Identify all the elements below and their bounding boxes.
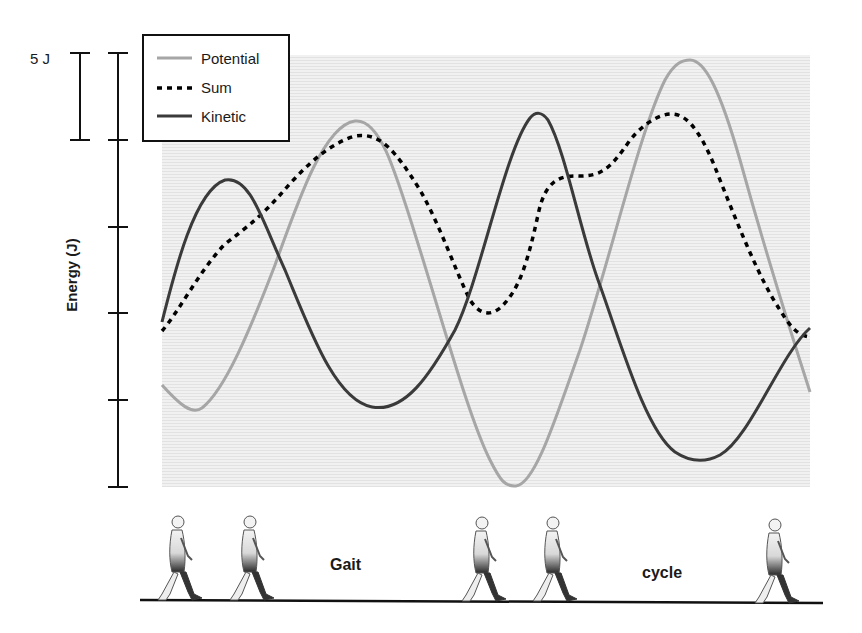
- walking-figure-3: [462, 517, 506, 601]
- legend: Potential Sum Kinetic: [143, 35, 289, 141]
- walking-figure-2: [230, 516, 274, 600]
- energy-chart: 5 J Energy (J) Potential Sum Kinetic Gai…: [0, 0, 862, 633]
- walking-figure-1: [158, 516, 202, 600]
- legend-label-sum: Sum: [201, 79, 232, 96]
- y-axis: [108, 53, 128, 487]
- ground-line: [140, 600, 823, 603]
- scale-bar-label: 5 J: [30, 50, 50, 67]
- y-axis-label: Energy (J): [63, 238, 80, 311]
- scale-bar: [70, 53, 90, 140]
- legend-label-potential: Potential: [201, 50, 259, 67]
- cycle-label: cycle: [642, 564, 682, 581]
- walking-figure-5: [755, 519, 799, 603]
- legend-label-kinetic: Kinetic: [201, 108, 247, 125]
- walking-figure-4: [533, 517, 577, 601]
- gait-label: Gait: [330, 556, 362, 573]
